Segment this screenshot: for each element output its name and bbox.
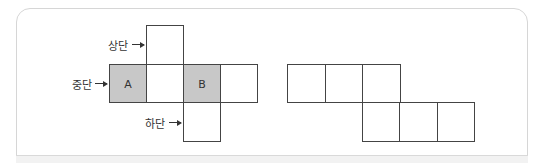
square-a-label: A — [110, 77, 146, 90]
label-bottom: 하단 — [145, 115, 165, 131]
middle-square-2 — [146, 64, 184, 103]
arrow-bottom-icon — [169, 122, 181, 123]
right-square-4 — [362, 102, 401, 142]
arrow-top-icon — [132, 44, 144, 45]
top-square — [146, 25, 184, 65]
right-square-5 — [399, 102, 438, 142]
right-square-3 — [362, 64, 401, 103]
right-square-1 — [287, 64, 326, 103]
label-middle: 중단 — [72, 76, 92, 92]
bottom-square — [183, 102, 221, 142]
arrow-middle-icon — [95, 83, 107, 84]
middle-square-4 — [220, 64, 258, 103]
right-square-2 — [325, 64, 364, 103]
label-top: 상단 — [108, 37, 128, 53]
bottom-band — [16, 155, 528, 163]
square-a: A — [109, 64, 147, 103]
square-b-label: B — [184, 77, 220, 90]
square-b: B — [183, 64, 221, 103]
right-square-6 — [437, 102, 475, 142]
